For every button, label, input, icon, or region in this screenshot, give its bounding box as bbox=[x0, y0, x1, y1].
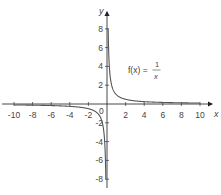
x-tick-label: -4 bbox=[66, 110, 74, 120]
x-tick-label: -10 bbox=[8, 110, 21, 120]
function-label-numerator: 1 bbox=[155, 60, 159, 69]
origin-label: 0 bbox=[99, 106, 104, 116]
y-tick-label: -6 bbox=[95, 155, 103, 165]
y-axis-label: y bbox=[98, 6, 104, 16]
x-tick-label: 2 bbox=[123, 110, 128, 120]
x-tick-label: -8 bbox=[29, 110, 37, 120]
y-tick-label: 4 bbox=[98, 61, 103, 71]
x-tick-label: 8 bbox=[179, 110, 184, 120]
x-tick-label: 6 bbox=[160, 110, 165, 120]
y-tick-label: -8 bbox=[95, 174, 103, 184]
x-tick-label: 10 bbox=[195, 110, 205, 120]
y-tick-label: 2 bbox=[98, 80, 103, 90]
y-tick-label: -4 bbox=[95, 137, 103, 147]
function-label: f(x) = 1 x bbox=[128, 60, 161, 81]
y-tick-label: 8 bbox=[98, 24, 103, 34]
x-tick-label: 4 bbox=[142, 110, 147, 120]
x-axis-label: x bbox=[213, 109, 219, 119]
x-tick-label: -2 bbox=[85, 110, 93, 120]
chart: -10-8-6-4-2246810-8-6-4-22468 x y 0 f(x)… bbox=[0, 0, 221, 195]
axes bbox=[2, 12, 212, 188]
function-label-denominator: x bbox=[153, 72, 158, 81]
plot-area: -10-8-6-4-2246810-8-6-4-22468 x y 0 f(x)… bbox=[0, 0, 221, 195]
y-tick-label: 6 bbox=[98, 43, 103, 53]
x-tick-label: -6 bbox=[47, 110, 55, 120]
function-label-prefix: f(x) = bbox=[128, 65, 148, 75]
